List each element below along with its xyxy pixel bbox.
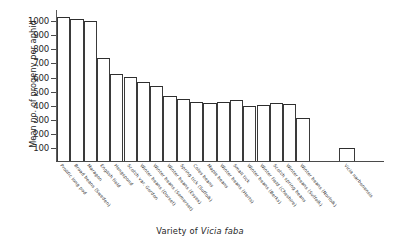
x-axis-tick-label: Vicia narbonensis — [343, 163, 374, 199]
bar — [270, 103, 283, 161]
bar — [230, 100, 243, 161]
y-axis-tick-label: 200 — [33, 129, 49, 139]
y-axis-tick — [51, 120, 56, 121]
bar — [217, 102, 230, 161]
y-axis-tick — [51, 148, 56, 149]
x-axis-title-species: Vicia faba — [201, 226, 244, 236]
y-axis-tick — [51, 78, 56, 79]
y-axis-tick — [51, 21, 56, 22]
y-axis-tick-label: 700 — [33, 58, 49, 68]
y-axis-tick-label: 900 — [33, 30, 49, 40]
bar — [163, 96, 176, 161]
bar — [150, 86, 163, 161]
bar-series — [57, 10, 384, 161]
y-axis-tick — [51, 35, 56, 36]
bar — [57, 17, 70, 161]
y-axis-tick-label: 1000 — [28, 16, 49, 26]
y-axis-tick-label: 800 — [33, 44, 49, 54]
bar-chart-figure: Mean no. of progeny per aphid 1002003004… — [0, 0, 400, 246]
y-axis-tick-label: 300 — [33, 115, 49, 125]
x-axis-title-prefix: Variety of — [156, 226, 201, 236]
bar — [124, 77, 137, 161]
y-axis-tick — [51, 92, 56, 93]
y-axis-tick — [51, 134, 56, 135]
bar — [110, 74, 123, 161]
x-axis-title: Variety of Vicia faba — [0, 226, 400, 236]
bar — [203, 103, 216, 161]
y-axis-tick — [51, 106, 56, 107]
bar — [296, 118, 309, 161]
x-axis-line — [56, 161, 384, 162]
bar — [137, 82, 150, 161]
bar — [177, 99, 190, 161]
plot-area: 1002003004005006007008009001000 — [56, 10, 384, 162]
y-axis-tick-label: 100 — [33, 143, 49, 153]
bar — [70, 19, 83, 161]
y-axis-tick-label: 500 — [33, 87, 49, 97]
bar — [257, 105, 270, 161]
x-axis-tick-labels: Prolific long podBroad beans (Sweden)Mar… — [56, 163, 386, 223]
bar — [190, 102, 203, 161]
bar — [84, 21, 97, 162]
bar — [243, 106, 256, 161]
bar — [283, 104, 296, 161]
y-axis-tick — [51, 49, 56, 50]
y-axis-tick — [51, 63, 56, 64]
y-axis-tick-label: 600 — [33, 73, 49, 83]
bar — [97, 58, 110, 161]
bar — [339, 148, 355, 161]
y-axis-tick-label: 400 — [33, 101, 49, 111]
